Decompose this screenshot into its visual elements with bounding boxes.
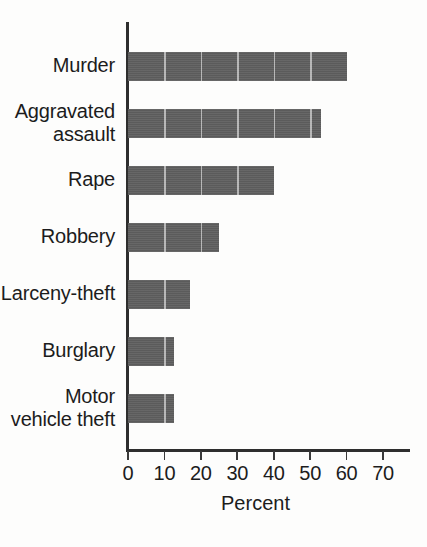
bar-gridline xyxy=(237,109,238,138)
bar xyxy=(128,166,274,195)
x-axis-tick xyxy=(382,451,384,460)
plot-area: 010203040506070 MurderAggravated assault… xyxy=(0,0,427,547)
bar-gridline xyxy=(274,109,275,138)
category-label: Rape xyxy=(68,168,115,191)
bar xyxy=(128,337,174,366)
category-label: Burglary xyxy=(42,339,115,362)
bar-gridline xyxy=(164,109,165,138)
category-label: Motor vehicle theft xyxy=(11,385,115,431)
x-axis-title: Percent xyxy=(128,492,383,515)
x-axis-tick xyxy=(200,451,202,460)
category-label: Robbery xyxy=(41,225,115,248)
bar xyxy=(128,52,347,81)
bar-gridline xyxy=(164,223,165,252)
x-axis-tick xyxy=(164,451,166,460)
x-axis-tick xyxy=(127,451,129,460)
bar-gridline xyxy=(201,223,202,252)
bar-gridline xyxy=(310,109,311,138)
x-axis-tick-label: 40 xyxy=(254,462,294,485)
bar-gridline xyxy=(201,52,202,81)
bar-gridline xyxy=(164,52,165,81)
x-axis-line xyxy=(126,449,410,452)
bar xyxy=(128,223,219,252)
bar-gridline xyxy=(201,109,202,138)
x-axis-tick-label: 20 xyxy=(181,462,221,485)
bar-gridline xyxy=(310,52,311,81)
category-label: Larceny-theft xyxy=(1,282,115,305)
x-axis-tick-label: 70 xyxy=(363,462,403,485)
x-axis-tick-label: 0 xyxy=(108,462,148,485)
bar-gridline xyxy=(164,394,165,423)
x-axis-tick xyxy=(309,451,311,460)
bar-gridline xyxy=(164,280,165,309)
bar-gridline xyxy=(274,52,275,81)
x-axis-tick-label: 60 xyxy=(327,462,367,485)
bar-gridline xyxy=(164,166,165,195)
bar-gridline xyxy=(164,337,165,366)
bar-gridline xyxy=(237,52,238,81)
bar xyxy=(128,394,174,423)
x-axis-tick xyxy=(236,451,238,460)
x-axis-tick-label: 50 xyxy=(290,462,330,485)
bar-gridline xyxy=(201,166,202,195)
bar-chart-figure: 010203040506070 MurderAggravated assault… xyxy=(0,0,427,547)
bar xyxy=(128,109,321,138)
x-axis-tick xyxy=(346,451,348,460)
x-axis-tick-label: 10 xyxy=(144,462,184,485)
bar-row xyxy=(0,166,427,195)
category-label: Murder xyxy=(53,54,115,77)
x-axis-tick xyxy=(273,451,275,460)
bar xyxy=(128,280,190,309)
category-label: Aggravated assault xyxy=(15,100,115,146)
bar-gridline xyxy=(237,166,238,195)
x-axis-tick-label: 30 xyxy=(217,462,257,485)
